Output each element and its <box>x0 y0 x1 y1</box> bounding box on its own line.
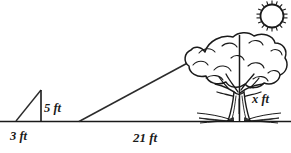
tree-canopy-outline <box>185 33 287 88</box>
stick-height-label: 5 ft <box>44 102 61 115</box>
stick-shadow-label: 3 ft <box>10 130 27 143</box>
tree <box>185 33 287 123</box>
sun <box>257 1 288 32</box>
shadow-problem-diagram: 5 ft 3 ft 21 ft x ft <box>0 0 291 153</box>
sun-disc <box>261 5 284 28</box>
tree-height-label: x ft <box>252 93 269 106</box>
stick-triangle <box>16 90 41 122</box>
tree-shadow-label: 21 ft <box>133 131 157 144</box>
stick-hypotenuse <box>16 90 41 121</box>
